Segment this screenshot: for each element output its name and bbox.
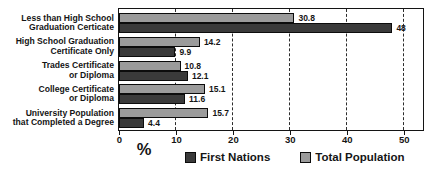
value-label: 10.8 [185, 61, 202, 71]
bar-total-population [119, 13, 294, 23]
value-label: 9.9 [179, 47, 191, 57]
category-label: Trades Certificate or Diploma [0, 62, 114, 81]
tick-label: 40 [342, 134, 353, 145]
value-label: 14.2 [204, 37, 221, 47]
bar-first-nations [119, 47, 175, 57]
tick-mark [347, 131, 349, 135]
tick-label: 30 [285, 134, 296, 145]
total-population-swatch-icon [300, 152, 311, 163]
value-label: 48 [396, 23, 405, 33]
tick-label: 20 [228, 134, 239, 145]
value-label: 15.1 [209, 84, 226, 94]
legend-item-first-nations: First Nations [185, 151, 270, 163]
bar-total-population [119, 61, 181, 71]
category-label: Less than High School Graduation Certica… [0, 14, 114, 33]
bar-first-nations [119, 118, 144, 128]
value-label: 4.4 [148, 118, 160, 128]
bar-first-nations [119, 94, 185, 104]
bar-first-nations [119, 23, 392, 33]
tick-mark [290, 131, 292, 135]
bar-first-nations [119, 71, 188, 81]
category-label: University Population that Completed a D… [0, 109, 114, 128]
plot-area: 30.84814.29.910.812.115.111.615.74.4 [118, 8, 424, 131]
value-label: 11.6 [189, 94, 205, 104]
tick-label: 10 [171, 134, 182, 145]
legend-label: First Nations [200, 151, 270, 163]
category-label: High School Graduation Certificate Only [0, 38, 114, 57]
legend-item-total-population: Total Population [300, 151, 404, 163]
bar-total-population [119, 37, 200, 47]
tick-label: 50 [399, 134, 410, 145]
tick-mark [119, 131, 121, 135]
tick-mark [233, 131, 235, 135]
value-label: 30.8 [298, 13, 315, 23]
x-axis-title: % [128, 140, 160, 159]
legend: First Nations Total Population [185, 151, 405, 163]
bar-total-population [119, 84, 205, 94]
category-label: College Certificate or Diploma [0, 85, 114, 104]
legend-label: Total Population [315, 151, 404, 163]
value-label: 12.1 [192, 71, 209, 81]
category-axis: Less than High School Graduation Certica… [0, 0, 116, 174]
tick-label: 0 [117, 134, 122, 145]
value-label: 15.7 [212, 108, 229, 118]
tick-mark [176, 131, 178, 135]
bar-chart: 30.84814.29.910.812.115.111.615.74.4 Les… [0, 0, 440, 174]
bar-total-population [119, 108, 208, 118]
tick-mark [404, 131, 406, 135]
first-nations-swatch-icon [185, 152, 196, 163]
